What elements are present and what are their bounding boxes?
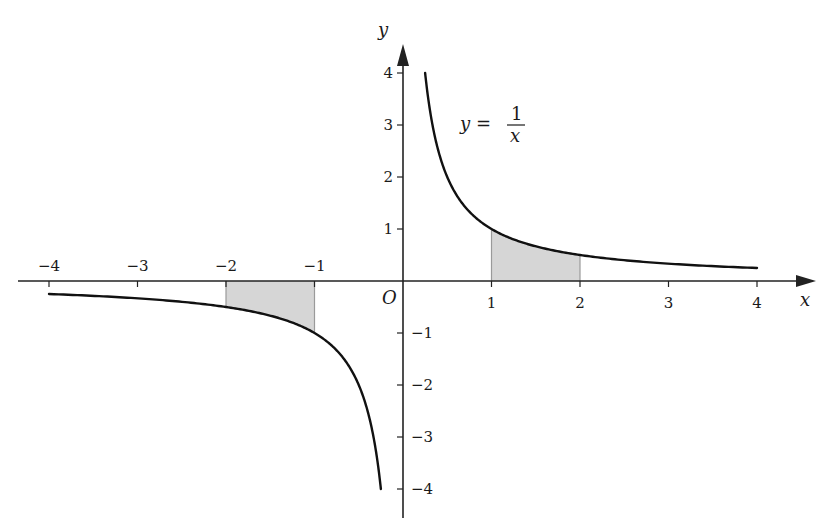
y-tick-label: 4 bbox=[383, 64, 393, 82]
formula-denominator: x bbox=[510, 125, 520, 146]
curve-positive-branch bbox=[425, 73, 757, 268]
x-tick-label: −1 bbox=[303, 257, 325, 275]
y-axis-arrow-icon bbox=[397, 44, 409, 66]
x-tick-label: 2 bbox=[575, 294, 585, 312]
formula-numerator: 1 bbox=[511, 103, 522, 124]
x-axis-arrow-icon bbox=[796, 275, 816, 287]
function-plot: −4−3−2−11234−4−3−2−11234 x y O y = 1 x bbox=[0, 0, 830, 530]
function-annotation: y = 1 x bbox=[459, 103, 525, 146]
x-tick-label: −2 bbox=[215, 257, 237, 275]
y-tick-label: −3 bbox=[411, 428, 433, 446]
x-tick-label: 4 bbox=[752, 294, 762, 312]
x-tick-label: −3 bbox=[126, 257, 148, 275]
x-tick-label: 1 bbox=[487, 294, 497, 312]
y-tick-label: 2 bbox=[383, 168, 393, 186]
y-tick-label: −2 bbox=[411, 376, 433, 394]
y-tick-label: −4 bbox=[411, 480, 433, 498]
y-axis-label: y bbox=[377, 19, 389, 40]
x-tick-label: 3 bbox=[664, 294, 674, 312]
y-tick-label: 3 bbox=[383, 116, 393, 134]
curve-negative-branch bbox=[49, 294, 381, 489]
x-axis-label: x bbox=[800, 289, 810, 310]
origin-label: O bbox=[382, 287, 397, 308]
x-tick-label: −4 bbox=[38, 257, 60, 275]
y-tick-label: 1 bbox=[383, 220, 393, 238]
y-tick-label: −1 bbox=[411, 324, 433, 342]
formula-lhs: y = bbox=[459, 113, 491, 134]
